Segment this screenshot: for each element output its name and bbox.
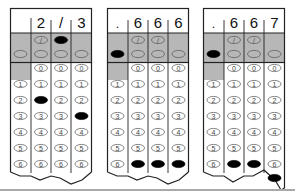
- svg-text:6: 6: [250, 14, 258, 31]
- svg-text:2: 2: [116, 97, 120, 104]
- svg-text:6: 6: [80, 161, 84, 168]
- svg-text:4: 4: [212, 129, 216, 136]
- svg-text:0: 0: [156, 65, 160, 72]
- bottom-divider: [0, 189, 295, 191]
- svg-text:1: 1: [177, 81, 181, 88]
- answer-grid-1: 2/3/0001111222333444455556666: [10, 8, 92, 190]
- svg-text:4: 4: [19, 129, 23, 136]
- svg-text:5: 5: [177, 145, 181, 152]
- svg-text:0: 0: [232, 65, 236, 72]
- svg-text:6: 6: [212, 161, 216, 168]
- svg-text:5: 5: [212, 145, 216, 152]
- svg-text:6: 6: [273, 161, 277, 168]
- svg-text:3: 3: [77, 14, 85, 31]
- svg-text:6: 6: [154, 14, 162, 31]
- svg-text:5: 5: [156, 145, 160, 152]
- svg-text:1: 1: [252, 81, 256, 88]
- svg-text:3: 3: [39, 113, 43, 120]
- svg-text:6: 6: [116, 161, 120, 168]
- svg-text:3: 3: [177, 113, 181, 120]
- svg-text:0: 0: [59, 65, 63, 72]
- svg-text:2: 2: [59, 97, 63, 104]
- svg-text:2: 2: [37, 14, 45, 31]
- svg-text:5: 5: [80, 145, 84, 152]
- svg-text:4: 4: [59, 129, 63, 136]
- svg-text:.: .: [212, 17, 215, 31]
- svg-text:1: 1: [273, 81, 277, 88]
- svg-text:4: 4: [136, 129, 140, 136]
- svg-text:6: 6: [59, 161, 63, 168]
- svg-text:4: 4: [80, 129, 84, 136]
- svg-text:3: 3: [252, 113, 256, 120]
- svg-text:3: 3: [116, 113, 120, 120]
- svg-text:/: /: [233, 37, 235, 44]
- svg-text:5: 5: [19, 145, 23, 152]
- svg-text:3: 3: [19, 113, 23, 120]
- svg-text:4: 4: [177, 129, 181, 136]
- svg-text:6: 6: [230, 14, 238, 31]
- svg-text:5: 5: [252, 145, 256, 152]
- answer-grid-3: .667//0001111222233334444555566: [203, 8, 285, 190]
- svg-text:5: 5: [136, 145, 140, 152]
- svg-text:6: 6: [39, 161, 43, 168]
- svg-text:4: 4: [232, 129, 236, 136]
- svg-text:0: 0: [136, 65, 140, 72]
- svg-text:1: 1: [232, 81, 236, 88]
- svg-text:/: /: [40, 37, 42, 44]
- svg-text:2: 2: [252, 97, 256, 104]
- svg-text:4: 4: [273, 129, 277, 136]
- svg-text:2: 2: [232, 97, 236, 104]
- svg-text:4: 4: [116, 129, 120, 136]
- svg-text:4: 4: [39, 129, 43, 136]
- svg-text:/: /: [59, 14, 64, 31]
- svg-text:3: 3: [273, 113, 277, 120]
- svg-text:5: 5: [39, 145, 43, 152]
- svg-text:2: 2: [80, 97, 84, 104]
- svg-text:/: /: [253, 37, 255, 44]
- svg-text:3: 3: [59, 113, 63, 120]
- svg-text:2: 2: [136, 97, 140, 104]
- svg-text:1: 1: [212, 81, 216, 88]
- svg-text:0: 0: [252, 65, 256, 72]
- svg-text:2: 2: [273, 97, 277, 104]
- svg-text:2: 2: [177, 97, 181, 104]
- svg-text:0: 0: [80, 65, 84, 72]
- svg-text:/: /: [157, 37, 159, 44]
- svg-text:1: 1: [156, 81, 160, 88]
- svg-text:7: 7: [270, 14, 278, 31]
- svg-text:2: 2: [19, 97, 23, 104]
- svg-text:1: 1: [19, 81, 23, 88]
- svg-text:0: 0: [273, 65, 277, 72]
- svg-text:6: 6: [174, 14, 182, 31]
- svg-text:5: 5: [116, 145, 120, 152]
- svg-text:5: 5: [232, 145, 236, 152]
- svg-text:5: 5: [59, 145, 63, 152]
- svg-text:1: 1: [39, 81, 43, 88]
- svg-text:4: 4: [252, 129, 256, 136]
- svg-text:1: 1: [80, 81, 84, 88]
- svg-text:1: 1: [136, 81, 140, 88]
- svg-text:2: 2: [156, 97, 160, 104]
- svg-text:4: 4: [156, 129, 160, 136]
- svg-text:3: 3: [212, 113, 216, 120]
- svg-text:3: 3: [136, 113, 140, 120]
- svg-text:.: .: [116, 17, 119, 31]
- svg-text:1: 1: [59, 81, 63, 88]
- answer-grid-2: .666//000111122223333444455556: [107, 8, 189, 190]
- svg-text:0: 0: [39, 65, 43, 72]
- svg-text:5: 5: [273, 145, 277, 152]
- svg-text:3: 3: [156, 113, 160, 120]
- svg-text:6: 6: [19, 161, 23, 168]
- svg-text:0: 0: [177, 65, 181, 72]
- svg-text:6: 6: [134, 14, 142, 31]
- svg-text:/: /: [137, 37, 139, 44]
- svg-text:1: 1: [116, 81, 120, 88]
- svg-text:2: 2: [212, 97, 216, 104]
- svg-text:3: 3: [232, 113, 236, 120]
